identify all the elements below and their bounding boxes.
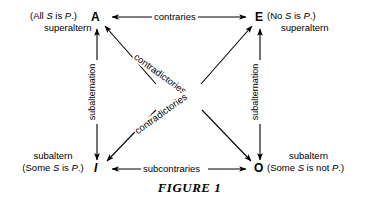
corner-letter-i: I xyxy=(94,162,97,174)
relation-label-subalternation-left: subalternation xyxy=(87,62,97,123)
corner-e-role: superaltern xyxy=(281,22,329,34)
corner-o-labels: subaltern (Some S is not P.) xyxy=(267,150,344,174)
corner-letter-a: A xyxy=(91,11,100,23)
corner-o-role: subaltern xyxy=(289,150,344,162)
corner-e-labels: (No S is P.) superaltern xyxy=(267,10,329,34)
relation-label-contraries: contraries xyxy=(152,12,198,22)
relation-label-subcontraries: subcontraries xyxy=(141,164,202,174)
corner-a-labels: (All S is P.) superaltern xyxy=(30,10,92,34)
relation-label-subalternation-right: subalternation xyxy=(250,62,260,123)
corner-letter-o: O xyxy=(254,162,263,174)
corner-letter-e: E xyxy=(255,11,263,23)
corner-a-proposition: (All S is P.) xyxy=(30,10,92,22)
figure-caption: FIGURE 1 xyxy=(0,180,379,196)
corner-e-proposition: (No S is P.) xyxy=(267,10,329,22)
corner-a-role: superaltern xyxy=(44,22,92,34)
square-of-opposition-figure: A (All S is P.) superaltern E (No S is P… xyxy=(0,0,379,200)
corner-i-proposition: (Some S is P.) xyxy=(17,162,89,174)
corner-i-labels: subaltern (Some S is P.) xyxy=(17,150,89,174)
corner-o-proposition: (Some S is not P.) xyxy=(267,162,344,174)
corner-i-role: subaltern xyxy=(17,150,89,162)
